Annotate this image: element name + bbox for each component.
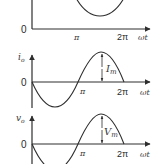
x-axis-label: ωt bbox=[140, 150, 151, 159]
tick-pi: π bbox=[79, 87, 86, 96]
waveform-diagram: 0 π 2π ωt io Im 0 π 2π ωt vo Vm 0 π 2π ω… bbox=[0, 0, 163, 164]
tick-pi: π bbox=[73, 33, 80, 42]
tick-pi: π bbox=[79, 149, 86, 158]
origin-label: 0 bbox=[21, 139, 27, 150]
waveform-curve bbox=[76, 0, 124, 16]
x-axis-label: ωt bbox=[138, 33, 149, 42]
waveform-curve bbox=[32, 114, 124, 164]
origin-label: 0 bbox=[21, 77, 27, 88]
current-plot: io Im 0 π 2π ωt bbox=[18, 52, 151, 108]
origin-label: 0 bbox=[21, 24, 27, 35]
voltage-plot: vo Vm 0 π 2π ωt bbox=[16, 113, 151, 164]
tick-2pi: 2π bbox=[117, 87, 128, 97]
y-axis-label: io bbox=[18, 52, 25, 63]
amplitude-label: Im bbox=[105, 63, 117, 76]
tick-2pi: 2π bbox=[117, 32, 128, 42]
y-axis-label: vo bbox=[16, 113, 25, 124]
waveform-curve bbox=[32, 52, 124, 107]
x-axis-label: ωt bbox=[140, 88, 151, 97]
tick-2pi: 2π bbox=[117, 149, 128, 159]
top-plot: 0 π 2π ωt bbox=[21, 0, 150, 42]
